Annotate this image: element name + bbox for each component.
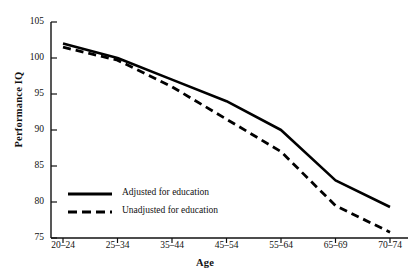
y-tick-label-85: 85 — [18, 160, 44, 170]
x-tick-label-4: 55–64 — [251, 240, 311, 250]
y-tick-label-80: 80 — [18, 196, 44, 206]
y-tick-label-105: 105 — [18, 16, 44, 26]
series-line-unadjusted — [63, 47, 390, 232]
x-tick-label-6: 70–74 — [360, 240, 410, 250]
legend-label-adjusted: Adjusted for education — [122, 187, 209, 197]
series-line-adjusted — [63, 44, 390, 207]
chart-container: Performance IQ Age 1051009590858075 20–2… — [0, 0, 410, 279]
y-tick-label-100: 100 — [18, 52, 44, 62]
x-tick-label-0: 20–24 — [33, 240, 93, 250]
x-tick-label-3: 45–54 — [197, 240, 257, 250]
legend-swatches — [68, 194, 112, 212]
x-tick-label-2: 35–44 — [142, 240, 202, 250]
x-axis-title: Age — [0, 257, 410, 268]
legend-label-unadjusted: Unadjusted for education — [122, 205, 218, 215]
y-tick-label-95: 95 — [18, 88, 44, 98]
line-chart-plot — [0, 0, 410, 279]
x-tick-label-5: 65–69 — [306, 240, 366, 250]
y-tick-label-90: 90 — [18, 124, 44, 134]
x-tick-label-1: 25–34 — [88, 240, 148, 250]
data-series-layer — [63, 44, 390, 233]
